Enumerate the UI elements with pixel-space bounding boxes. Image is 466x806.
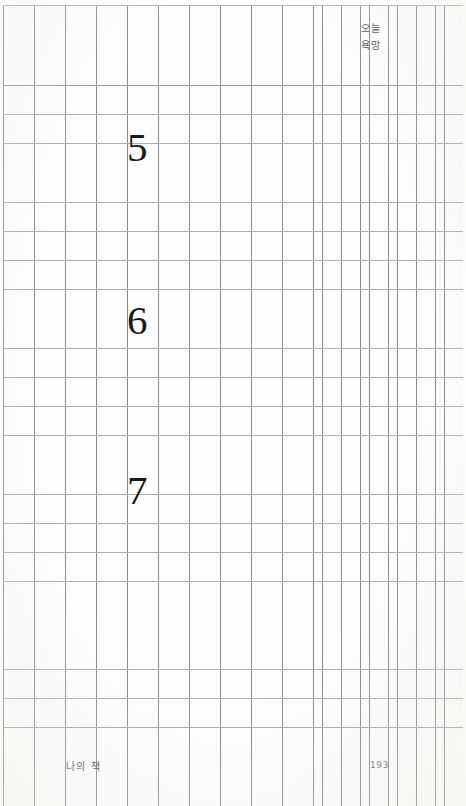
header-note-line-2: 욕망 — [361, 41, 380, 51]
paper-surface — [0, 0, 466, 806]
numeral-six: 6 — [127, 300, 148, 341]
header-note: 오늘 욕망 — [361, 24, 395, 51]
numeral-seven: 7 — [127, 470, 148, 511]
footer-caption: 나의 책 — [66, 758, 101, 773]
numeral-five: 5 — [127, 127, 148, 168]
page-number: 193 — [370, 760, 389, 770]
notebook-page: 오늘 욕망 5 6 7 나의 책 193 — [0, 0, 466, 806]
header-note-line-1: 오늘 — [361, 24, 380, 34]
